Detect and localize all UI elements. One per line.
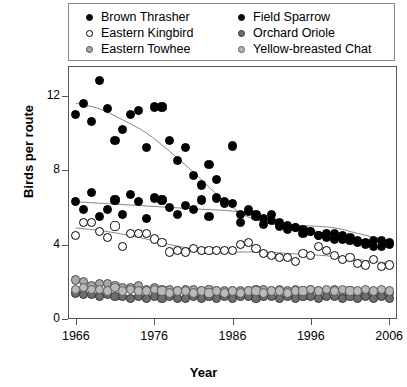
- legend-marker-icon: [233, 14, 249, 21]
- data-point: [385, 240, 394, 249]
- y-axis-tick: [62, 170, 68, 171]
- data-point: [87, 218, 96, 227]
- data-point: [103, 233, 112, 242]
- y-axis-tick-label: 12: [36, 88, 60, 102]
- legend-label: Orchard Oriole: [249, 25, 335, 41]
- trend-line: [76, 103, 389, 241]
- y-axis-tick-label: 4: [36, 237, 60, 251]
- y-axis-tick: [62, 245, 68, 246]
- legend-item[interactable]: Brown Thrasher: [81, 9, 193, 25]
- chart-legend: Brown ThrasherEastern KingbirdEastern To…: [68, 3, 395, 61]
- x-axis-tick-label: 1996: [281, 329, 341, 343]
- y-axis-tick: [62, 96, 68, 97]
- data-point: [110, 221, 119, 230]
- legend-label: Eastern Towhee: [97, 41, 190, 57]
- data-point: [204, 160, 213, 169]
- legend-marker-icon: [233, 46, 249, 53]
- legend-label: Eastern Kingbird: [97, 25, 193, 41]
- data-point: [103, 205, 112, 214]
- data-point: [110, 136, 119, 145]
- data-point: [197, 180, 206, 189]
- legend-marker-icon: [81, 14, 97, 21]
- data-point: [236, 218, 245, 227]
- x-axis-tick-label: 1986: [203, 329, 263, 343]
- x-axis-tick: [154, 319, 155, 325]
- data-point: [189, 205, 198, 214]
- data-point: [204, 212, 213, 221]
- data-point: [79, 205, 88, 214]
- legend-column-left: Brown ThrasherEastern KingbirdEastern To…: [81, 9, 193, 57]
- data-point: [385, 260, 394, 269]
- data-point: [157, 238, 166, 247]
- data-point: [291, 257, 300, 266]
- y-axis-tick-label: 8: [36, 162, 60, 176]
- data-point: [157, 102, 166, 111]
- legend-marker-icon: [81, 46, 97, 53]
- legend-column-right: Field SparrowOrchard OrioleYellow-breast…: [233, 9, 371, 57]
- data-point: [228, 141, 237, 150]
- x-axis-tick: [233, 319, 234, 325]
- legend-label: Brown Thrasher: [97, 9, 190, 25]
- data-point: [369, 255, 378, 264]
- legend-item[interactable]: Eastern Towhee: [81, 41, 193, 57]
- y-axis-title: Birds per route: [21, 72, 36, 232]
- data-point: [110, 195, 119, 204]
- x-axis-tick: [311, 319, 312, 325]
- x-axis-tick-label: 1966: [46, 329, 106, 343]
- chart-root: Brown ThrasherEastern KingbirdEastern To…: [0, 0, 407, 387]
- plot-area: 0481219661976198619962006: [68, 66, 397, 319]
- y-axis-tick: [62, 319, 68, 320]
- legend-marker-icon: [233, 30, 249, 37]
- legend-label: Yellow-breasted Chat: [249, 41, 371, 57]
- legend-item[interactable]: Field Sparrow: [233, 9, 371, 25]
- data-point: [197, 195, 206, 204]
- x-axis-tick-label: 2006: [359, 329, 407, 343]
- x-axis-title: Year: [0, 365, 407, 380]
- data-point: [385, 286, 394, 295]
- x-axis-tick: [389, 319, 390, 325]
- data-point: [157, 195, 166, 204]
- legend-item[interactable]: Yellow-breasted Chat: [233, 41, 371, 57]
- data-point: [103, 104, 112, 113]
- legend-item[interactable]: Orchard Oriole: [233, 25, 371, 41]
- data-point: [142, 214, 151, 223]
- data-point: [79, 99, 88, 108]
- x-axis-tick: [76, 319, 77, 325]
- legend-item[interactable]: Eastern Kingbird: [81, 25, 193, 41]
- x-axis-tick-label: 1976: [124, 329, 184, 343]
- data-point: [228, 246, 237, 255]
- legend-label: Field Sparrow: [249, 9, 330, 25]
- legend-marker-icon: [81, 30, 97, 37]
- y-axis-tick-label: 0: [36, 311, 60, 325]
